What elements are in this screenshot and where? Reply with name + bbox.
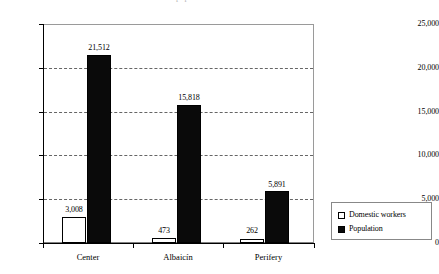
x-category-label-albaicin: Albaicín (133, 252, 223, 262)
bar-domestic-albaicin (152, 238, 176, 243)
bar-population-perifery (265, 191, 289, 243)
x-axis-line (43, 243, 315, 244)
y-tick-label-20000: 20,000 (401, 64, 439, 72)
y-tick-label-10000: 10,000 (401, 151, 439, 159)
x-tick-mark-2 (223, 244, 224, 248)
open-square-swatch-icon (338, 212, 345, 219)
bar-domestic-perifery (240, 239, 264, 243)
y-tick-label-15000: 15,000 (401, 108, 439, 116)
gridline-20000 (44, 68, 313, 69)
y-tick-mark-5000 (39, 199, 43, 200)
legend-label-population: Population (349, 225, 383, 233)
chart-title: Domestic workers and population (0, 0, 310, 2)
x-tick-mark-0 (43, 244, 44, 248)
x-category-label-perifery: Perifery (223, 252, 314, 262)
y-tick-mark-25000 (39, 24, 43, 25)
y-tick-mark-10000 (39, 155, 43, 156)
x-category-label-center: Center (43, 252, 133, 262)
y-tick-label-25000: 25,000 (401, 20, 439, 28)
y-tick-mark-15000 (39, 112, 43, 113)
y-tick-label-0: 0 (401, 239, 439, 247)
bar-label-population-center: 21,512 (73, 44, 125, 52)
x-tick-mark-1 (133, 244, 134, 248)
y-axis-line (43, 24, 44, 244)
bar-population-albaicin (177, 105, 201, 244)
bar-label-population-albaicin: 15,818 (163, 94, 215, 102)
y-tick-mark-20000 (39, 68, 43, 69)
bar-domestic-center (62, 217, 86, 243)
chart-legend: Domestic workers Population (331, 202, 432, 240)
filled-square-swatch-icon (338, 226, 345, 233)
legend-label-domestic-workers: Domestic workers (349, 211, 406, 219)
bar-population-center (87, 55, 111, 243)
legend-item-domestic-workers: Domestic workers (338, 208, 431, 222)
legend-item-population: Population (338, 222, 431, 236)
bar-chart-figure: Domestic workers and population 25,000 2… (0, 0, 439, 274)
bar-label-population-perifery: 5,891 (251, 181, 303, 189)
x-tick-mark-3 (314, 244, 315, 248)
